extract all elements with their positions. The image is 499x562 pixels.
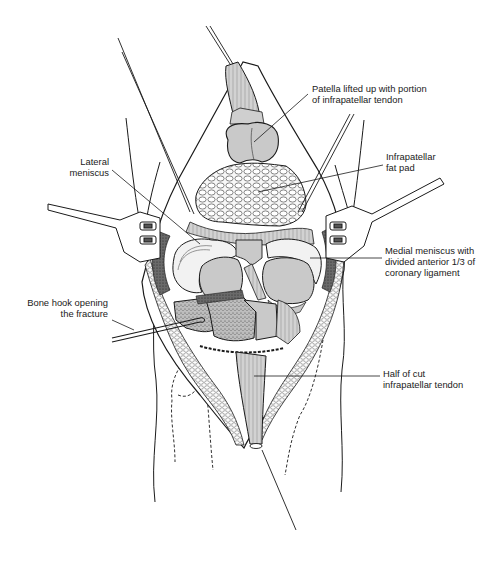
label-cut-tendon: Half of cut infrapatellar tendon xyxy=(383,369,463,391)
label-lateral-meniscus: Lateral meniscus xyxy=(64,157,109,179)
left-retractor xyxy=(48,204,160,262)
label-patella: Patella lifted up with portion of infrap… xyxy=(312,84,427,106)
label-fat-pad: Infrapatellar fat pad xyxy=(386,152,436,174)
label-cut-tendon-line-2: infrapatellar tendon xyxy=(383,380,463,391)
label-medial-meniscus-line-3: coronary ligament xyxy=(385,268,475,279)
label-bone-hook-line-2: the fracture xyxy=(14,309,108,320)
medial-femoral-condyle xyxy=(263,258,314,304)
label-fat-pad-line-2: fat pad xyxy=(386,163,436,174)
label-medial-meniscus-line-2: divided anterior 1/3 of xyxy=(385,257,475,268)
patella xyxy=(226,123,278,164)
label-patella-line-2: of infrapatellar tendon xyxy=(312,95,427,106)
label-medial-meniscus: Medial meniscus with divided anterior 1/… xyxy=(385,246,475,278)
label-bone-hook: Bone hook opening the fracture xyxy=(14,298,108,320)
label-lateral-meniscus-line-2: meniscus xyxy=(64,168,109,179)
